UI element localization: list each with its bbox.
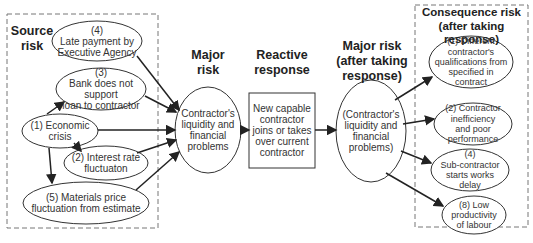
source-risk-3-label: (3) Bank does not support loan to contra… [56,68,146,110]
source-risk-1-label: (1) Economic crisis [22,114,98,148]
major-risk-after-header: Major risk (after taking response) [332,39,412,84]
source-risk-5-label: (5) Materials price fluctuation from est… [23,182,149,224]
source-risk-2-label: (2) Interest rate fluctuaton [64,146,148,180]
reactive-response-label: New capable contractor joins or takes ov… [249,93,315,168]
source-risk-header: Source risk [10,24,54,54]
major-risk-after-label: (Contractor's liquidity and financial pr… [336,80,406,182]
reactive-response-header: Reactive response [250,48,314,78]
major-risk-header: Major risk [186,48,230,78]
consequence-8-label: (8) Low productivity of labour [442,196,506,234]
consequence-1-label: (1) Different contractor's qualification… [429,36,513,88]
consequence-4-label: (4) Sub-contractor starts works delay [431,149,509,191]
major-risk-label: Contractor's liquidity and financial pro… [175,87,241,173]
source-risk-4-label: (4) Late payment by Executive Agency [52,21,142,61]
consequence-2-label: (2) Contractor inefficiency and poor per… [434,103,512,145]
